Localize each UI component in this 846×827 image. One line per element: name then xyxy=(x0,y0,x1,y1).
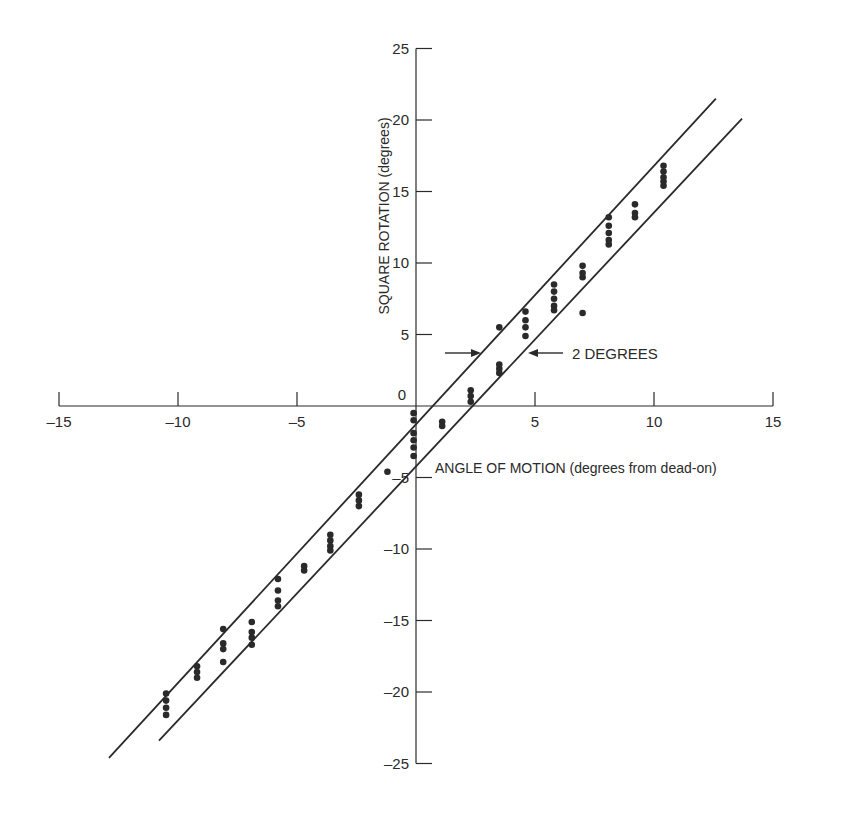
data-point xyxy=(275,597,282,604)
x-tick-label: –10 xyxy=(165,413,190,430)
data-point xyxy=(301,567,308,574)
y-tick-label: 20 xyxy=(392,111,409,128)
data-point xyxy=(248,629,255,636)
y-tick-label: 5 xyxy=(401,326,409,343)
y-tick-label: –25 xyxy=(384,755,409,772)
data-point xyxy=(410,410,417,417)
data-point xyxy=(275,576,282,583)
data-point xyxy=(496,370,503,377)
data-point xyxy=(248,634,255,641)
y-tick-label: 25 xyxy=(392,40,409,57)
data-point xyxy=(194,674,201,681)
data-point xyxy=(220,646,227,653)
upper-boundary-line xyxy=(109,99,716,758)
data-point xyxy=(275,587,282,594)
data-point xyxy=(248,619,255,626)
data-point xyxy=(220,626,227,633)
data-point xyxy=(551,288,558,295)
data-point xyxy=(522,308,529,315)
y-tick-label: 15 xyxy=(392,183,409,200)
data-point xyxy=(327,547,334,554)
annotation-2-degrees: 2 DEGREES xyxy=(445,345,658,362)
data-point xyxy=(522,333,529,340)
data-point xyxy=(579,263,586,270)
data-point xyxy=(194,669,201,676)
y-tick-label: 10 xyxy=(392,254,409,271)
y-tick-label: –20 xyxy=(384,683,409,700)
x-tick-label: 10 xyxy=(646,413,663,430)
data-point xyxy=(384,468,391,475)
arrow-left-head-icon xyxy=(528,349,538,357)
y-tick-label: –10 xyxy=(384,540,409,557)
data-point xyxy=(522,317,529,324)
data-point xyxy=(605,230,612,237)
data-point xyxy=(439,423,446,430)
x-tick-label: –15 xyxy=(46,413,71,430)
y-axis-title: SQUARE ROTATION (degrees) xyxy=(376,117,392,314)
scatter-chart: –15–10–5510152520151050–5–10–15–20–25 2 … xyxy=(0,0,846,827)
data-point xyxy=(410,430,417,437)
data-point xyxy=(194,663,201,670)
data-point xyxy=(605,214,612,221)
x-tick-label: 5 xyxy=(531,413,539,430)
data-point xyxy=(605,241,612,248)
data-point xyxy=(410,453,417,460)
data-point xyxy=(579,310,586,317)
data-point xyxy=(220,659,227,666)
data-points xyxy=(163,162,667,718)
data-point xyxy=(496,324,503,331)
x-tick-label: 15 xyxy=(765,413,782,430)
y-tick-label: –15 xyxy=(384,612,409,629)
data-point xyxy=(660,162,667,169)
data-point xyxy=(467,398,474,405)
data-point xyxy=(660,168,667,175)
origin-label: 0 xyxy=(398,386,406,403)
data-point xyxy=(356,503,363,510)
data-point xyxy=(467,387,474,394)
data-point xyxy=(632,214,639,221)
data-point xyxy=(605,223,612,230)
data-point xyxy=(660,182,667,189)
data-point xyxy=(632,201,639,208)
x-tick-label: –5 xyxy=(289,413,306,430)
data-point xyxy=(327,531,334,538)
data-point xyxy=(579,274,586,281)
data-point xyxy=(410,437,417,444)
data-point xyxy=(163,712,170,719)
x-axis-title: ANGLE OF MOTION (degrees from dead-on) xyxy=(435,460,717,476)
data-point xyxy=(551,281,558,288)
annotation-label: 2 DEGREES xyxy=(572,345,658,362)
data-point xyxy=(522,324,529,331)
data-point xyxy=(410,444,417,451)
data-point xyxy=(356,491,363,498)
data-point xyxy=(410,417,417,424)
data-point xyxy=(467,393,474,400)
data-point xyxy=(248,642,255,649)
data-point xyxy=(275,603,282,610)
data-point xyxy=(163,690,170,697)
data-point xyxy=(551,307,558,314)
data-point xyxy=(327,537,334,544)
data-point xyxy=(163,704,170,711)
axes: –15–10–5510152520151050–5–10–15–20–25 xyxy=(46,40,781,772)
data-point xyxy=(356,497,363,504)
data-point xyxy=(220,640,227,647)
data-point xyxy=(551,295,558,302)
data-point xyxy=(163,697,170,704)
